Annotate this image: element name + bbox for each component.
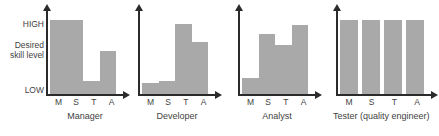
bar-analyst-s bbox=[259, 34, 276, 95]
x-tick-developer-s: S bbox=[160, 97, 177, 107]
x-axis-line-manager bbox=[46, 94, 124, 96]
bar-group-manager bbox=[50, 10, 116, 94]
bar-tester-s bbox=[362, 20, 380, 94]
x-tick-group-developer: M S T A bbox=[142, 97, 212, 107]
bar-tester-a bbox=[406, 20, 424, 94]
y-axis-line-analyst bbox=[238, 10, 240, 96]
x-axis-arrow-icon bbox=[315, 91, 322, 99]
x-tick-manager-a: A bbox=[103, 97, 120, 107]
y-tick-desired-skill-level: Desired skill level bbox=[0, 40, 44, 60]
x-tick-group-manager: M S T A bbox=[50, 97, 120, 107]
panel-title-tester: Tester (quality engineer) bbox=[333, 111, 429, 122]
panel-manager: M S T A Manager bbox=[46, 0, 124, 136]
panel-title-manager: Manager bbox=[46, 111, 124, 122]
x-tick-manager-t: T bbox=[85, 97, 102, 107]
x-tick-manager-m: M bbox=[50, 97, 67, 107]
bar-analyst-m bbox=[242, 78, 259, 95]
bar-group-tester bbox=[340, 10, 424, 94]
bar-analyst-t bbox=[275, 45, 292, 94]
x-tick-tester-m: M bbox=[340, 97, 358, 107]
x-tick-group-tester: M S T A bbox=[340, 97, 426, 107]
x-tick-tester-t: T bbox=[385, 97, 403, 107]
x-axis-line-developer bbox=[138, 94, 216, 96]
bar-developer-m bbox=[142, 83, 159, 95]
bar-developer-s bbox=[159, 81, 176, 95]
y-axis-line-tester bbox=[336, 10, 338, 96]
y-axis-line-developer bbox=[138, 10, 140, 96]
panel-analyst: M S T A Analyst bbox=[238, 0, 316, 136]
x-tick-analyst-t: T bbox=[277, 97, 294, 107]
y-axis-line-manager bbox=[46, 10, 48, 96]
bar-analyst-a bbox=[292, 25, 309, 94]
y-tick-desired-line2: skill level bbox=[0, 50, 44, 60]
y-tick-desired-line1: Desired bbox=[0, 40, 44, 50]
x-axis-line-tester bbox=[336, 94, 432, 96]
x-axis-arrow-icon bbox=[431, 91, 438, 99]
plot-area-analyst bbox=[238, 10, 316, 96]
y-tick-high: HIGH bbox=[23, 19, 44, 29]
y-axis-label-group: HIGH Desired skill level LOW bbox=[0, 0, 46, 136]
x-tick-analyst-s: S bbox=[260, 97, 277, 107]
x-tick-developer-m: M bbox=[142, 97, 159, 107]
x-tick-manager-s: S bbox=[68, 97, 85, 107]
x-tick-developer-t: T bbox=[177, 97, 194, 107]
bar-manager-a bbox=[100, 51, 117, 95]
panel-title-analyst: Analyst bbox=[238, 111, 316, 122]
x-tick-analyst-m: M bbox=[242, 97, 259, 107]
x-tick-group-analyst: M S T A bbox=[242, 97, 312, 107]
x-axis-arrow-icon bbox=[123, 91, 130, 99]
bar-manager-m bbox=[50, 20, 67, 94]
x-axis-arrow-icon bbox=[215, 91, 222, 99]
bar-developer-t bbox=[175, 24, 192, 95]
x-axis-line-analyst bbox=[238, 94, 316, 96]
y-tick-low: LOW bbox=[25, 85, 44, 95]
plot-area-tester bbox=[336, 10, 432, 96]
x-tick-analyst-a: A bbox=[295, 97, 312, 107]
panel-developer: M S T A Developer bbox=[138, 0, 216, 136]
bar-developer-a bbox=[192, 42, 209, 94]
x-tick-tester-s: S bbox=[363, 97, 381, 107]
bar-manager-t bbox=[83, 81, 100, 95]
x-tick-developer-a: A bbox=[195, 97, 212, 107]
plot-area-developer bbox=[138, 10, 216, 96]
bar-group-developer bbox=[142, 10, 208, 94]
bar-tester-t bbox=[384, 20, 402, 94]
bar-tester-m bbox=[340, 20, 358, 94]
skill-level-bar-chart-figure: HIGH Desired skill level LOW M S T bbox=[0, 0, 439, 136]
bar-group-analyst bbox=[242, 10, 308, 94]
panel-title-developer: Developer bbox=[138, 111, 216, 122]
panel-tester: M S T A Tester (quality engineer) bbox=[336, 0, 432, 136]
bar-manager-s bbox=[67, 20, 84, 94]
x-tick-tester-a: A bbox=[408, 97, 426, 107]
plot-area-manager bbox=[46, 10, 124, 96]
